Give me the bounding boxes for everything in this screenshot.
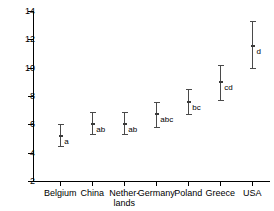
y-tick-label: 4 — [30, 148, 35, 158]
data-point-marker — [123, 123, 127, 125]
y-tick-label: 6 — [30, 119, 35, 129]
data-point-marker — [91, 123, 95, 125]
y-tick-label: 10 — [25, 63, 35, 73]
x-tick-mark — [92, 182, 93, 186]
significance-group-label: ab — [96, 125, 105, 134]
errorbar-cap-upper — [122, 112, 128, 113]
significance-group-label: ab — [128, 125, 137, 134]
x-tick-label-china: China — [80, 188, 104, 198]
x-tick-mark — [124, 182, 125, 186]
y-tick-label: 2 — [30, 176, 35, 186]
x-tick-mark — [220, 182, 221, 186]
errorbar-cap-lower — [154, 127, 160, 128]
y-tick-label: 8 — [30, 91, 35, 101]
errorbar-cap-lower — [122, 134, 128, 135]
x-tick-label-greece: Greece — [206, 188, 236, 198]
data-point-marker — [59, 135, 63, 137]
significance-group-label: a — [64, 137, 68, 146]
errorbar-cap-lower — [218, 100, 224, 101]
errorbar-cap-upper — [250, 21, 256, 22]
data-point-marker — [219, 81, 223, 83]
data-point-marker — [251, 45, 255, 47]
chart-container: 2468101214 BelgiumChinaNether- landsGerm… — [0, 0, 274, 211]
x-tick-mark — [252, 182, 253, 186]
errorbar-cap-lower — [186, 114, 192, 115]
y-tick-label: 12 — [25, 34, 35, 44]
significance-group-label: abc — [160, 115, 173, 124]
significance-group-label: bc — [192, 103, 200, 112]
errorbar-cap-lower — [90, 134, 96, 135]
significance-group-label: d — [256, 47, 260, 56]
x-tick-label-poland: Poland — [174, 188, 202, 198]
errorbar-cap-lower — [58, 146, 64, 147]
x-tick-mark — [188, 182, 189, 186]
significance-group-label: cd — [224, 83, 232, 92]
errorbar-line — [252, 21, 253, 68]
x-tick-mark — [156, 182, 157, 186]
x-tick-label-netherlands: Nether- lands — [109, 188, 139, 208]
errorbar-cap-upper — [186, 89, 192, 90]
data-point-marker — [155, 113, 159, 115]
x-tick-label-belgium: Belgium — [44, 188, 77, 198]
errorbar-cap-upper — [90, 112, 96, 113]
errorbar-cap-upper — [154, 102, 160, 103]
x-tick-label-germany: Germany — [138, 188, 175, 198]
y-tick-label: 14 — [25, 6, 35, 16]
x-axis-line — [33, 181, 270, 182]
errorbar-cap-upper — [58, 124, 64, 125]
errorbar-cap-lower — [250, 68, 256, 69]
data-point-marker — [187, 101, 191, 103]
errorbar-cap-upper — [218, 65, 224, 66]
x-tick-label-usa: USA — [243, 188, 262, 198]
x-tick-mark — [60, 182, 61, 186]
